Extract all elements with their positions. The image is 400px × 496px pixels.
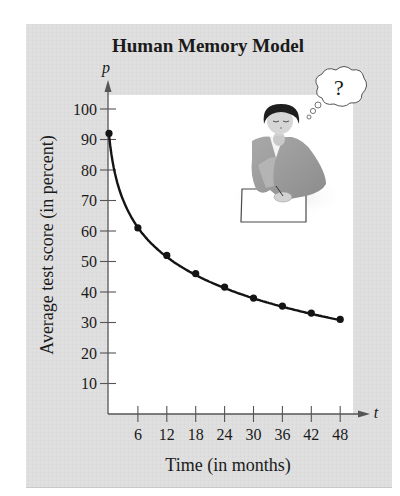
x-tick-label: 24: [217, 426, 233, 443]
y-tick-label: 40: [81, 284, 97, 301]
y-tick-label: 90: [81, 131, 97, 148]
x-tick-label: 12: [159, 426, 175, 443]
y-tick-label: 60: [81, 223, 97, 240]
data-point: [279, 302, 286, 309]
y-tick-label: 20: [81, 345, 97, 362]
data-point: [105, 130, 112, 137]
chart-title: Human Memory Model: [112, 35, 304, 56]
y-tick-label: 100: [73, 101, 97, 118]
y-tick-label: 30: [81, 314, 97, 331]
x-tick-label: 18: [188, 426, 204, 443]
data-point: [250, 295, 257, 302]
data-point: [337, 316, 344, 323]
chart-figure: Human Memory Model: [0, 0, 400, 496]
y-tick-label: 70: [81, 192, 97, 209]
data-point: [308, 309, 315, 316]
x-tick-label: 6: [134, 426, 142, 443]
data-point: [192, 270, 199, 277]
data-point: [134, 224, 141, 231]
y-axis-variable: p: [101, 59, 110, 77]
y-tick-label: 50: [81, 253, 97, 270]
data-point: [163, 252, 170, 259]
plot-area: [108, 95, 353, 414]
y-tick-label: 80: [81, 162, 97, 179]
data-point: [221, 284, 228, 291]
x-tick-label: 48: [332, 426, 348, 443]
x-tick-label: 42: [303, 426, 319, 443]
question-mark: ?: [334, 75, 344, 100]
x-tick-label: 36: [274, 426, 290, 443]
y-tick-label: 10: [81, 375, 97, 392]
x-axis-variable: t: [374, 404, 379, 421]
x-tick-label: 30: [246, 426, 262, 443]
x-axis-label: Time (in months): [165, 455, 290, 476]
y-axis-label: Average test score (in percent): [37, 135, 58, 355]
